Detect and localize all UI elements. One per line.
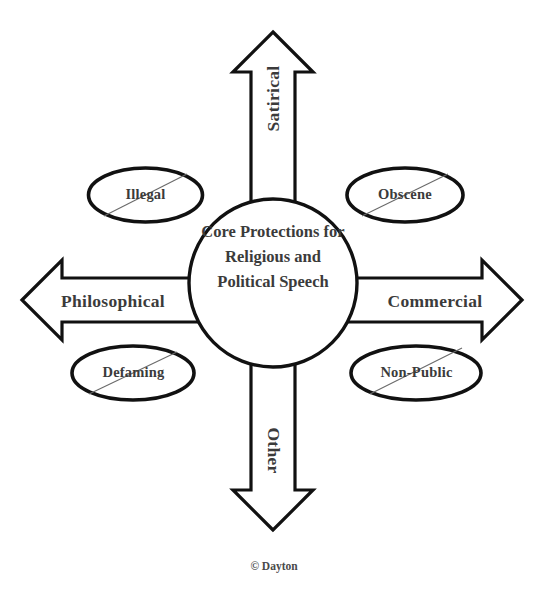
speech-protections-diagram: Core Protections for Religious and Polit… <box>0 0 548 602</box>
excluded-ellipse-non-public[interactable] <box>351 346 481 400</box>
copyright-credit: © Dayton <box>0 560 548 572</box>
diagram-canvas <box>0 0 548 602</box>
core-protections-label: Core Protections for Religious and Polit… <box>196 219 350 294</box>
